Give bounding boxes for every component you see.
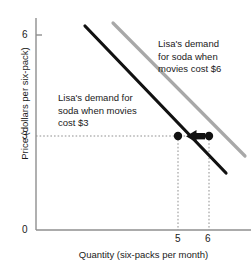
shift-arrow-icon xyxy=(186,130,205,143)
x-axis-label: Quantity (six-packs per month) xyxy=(36,249,251,260)
y-axis-label: Price (dollars per six-pack) xyxy=(19,34,30,174)
x-tick-label-6: 6 xyxy=(205,234,211,244)
annotation-gray-curve: Lisa's demand for soda when movies cost … xyxy=(158,38,250,76)
data-point-black-q5 xyxy=(174,132,182,140)
demand-curve-chart: 6 3 0 5 6 Price (dollars per six-pack) Q… xyxy=(0,0,251,273)
x-tick-label-5: 5 xyxy=(175,234,181,244)
y-tick-label-0: 0 xyxy=(22,225,28,235)
annotation-black-curve: Lisa's demand for soda when movies cost … xyxy=(58,92,150,130)
data-point-gray-q6 xyxy=(205,132,213,140)
